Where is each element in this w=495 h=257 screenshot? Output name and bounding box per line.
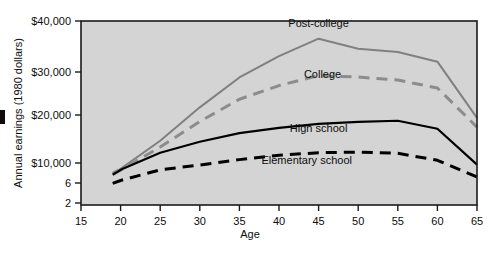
chart-figure: $40,000$30,000$20,000$10,00062 152025303… [0, 0, 495, 257]
x-tick-label: 30 [194, 215, 206, 227]
series-label-elementary-school: Elementary school [261, 154, 352, 166]
series-label-high-school: High school [290, 122, 347, 134]
x-tick-label: 20 [114, 215, 126, 227]
y-tick-label: 6 [65, 177, 71, 189]
x-tick-label: 15 [75, 215, 87, 227]
series-label-college: College [304, 68, 341, 80]
plot-background [81, 21, 477, 205]
y-axis-title: Annual earnings (1980 dollars) [12, 38, 24, 188]
page-edge-mark [0, 110, 5, 124]
y-tick-label: $20,000 [31, 109, 71, 121]
x-tick-label: 35 [233, 215, 245, 227]
series-label-post-college: Post-college [288, 17, 349, 29]
x-tick-label: 50 [352, 215, 364, 227]
earnings-by-education-line-chart: $40,000$30,000$20,000$10,00062 152025303… [0, 0, 495, 257]
y-tick-label: $40,000 [31, 15, 71, 27]
x-axis-title: Age [240, 228, 260, 240]
x-tick-label: 60 [431, 215, 443, 227]
y-tick-label: $10,000 [31, 157, 71, 169]
y-tick-label: 2 [65, 197, 71, 209]
x-tick-label: 65 [471, 215, 483, 227]
x-tick-label: 25 [154, 215, 166, 227]
x-tick-label: 45 [312, 215, 324, 227]
x-tick-label: 55 [392, 215, 404, 227]
x-tick-label: 40 [273, 215, 285, 227]
y-tick-label: $30,000 [31, 66, 71, 78]
